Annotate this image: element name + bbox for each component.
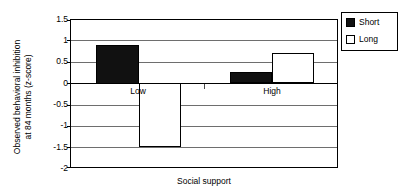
legend-item-short[interactable]: Short xyxy=(346,17,379,27)
y-tick-label-4: 0 xyxy=(40,78,68,88)
y-axis-title: Observed behavioral inhibition at 84 mon… xyxy=(0,0,44,193)
gridline-1 xyxy=(71,40,337,41)
chart-figure: Observed behavioral inhibition at 84 mon… xyxy=(0,0,409,193)
category-separator-tick xyxy=(204,84,205,89)
y-tick-mark-3 xyxy=(67,62,71,63)
gridline--0.5 xyxy=(71,105,337,106)
category-label-low: Low xyxy=(130,86,146,96)
y-tick-label-7: -1.5 xyxy=(40,142,68,152)
y-tick-mark-4 xyxy=(67,83,71,84)
y-tick-mark-1 xyxy=(67,20,71,21)
chart-legend: Short Long xyxy=(341,12,398,51)
y-tick-label-8: -2 xyxy=(40,163,68,173)
y-axis-title-line-1: Observed behavioral inhibition xyxy=(12,39,23,153)
y-tick-label-6: -1 xyxy=(40,120,68,130)
plot-area: Low High xyxy=(70,19,338,168)
y-tick-mark-2 xyxy=(67,40,71,41)
y-tick-mark-8 xyxy=(67,167,71,168)
category-label-high: High xyxy=(263,86,280,96)
legend-label-long: Long xyxy=(359,34,378,44)
bar-low-short[interactable] xyxy=(96,45,139,84)
y-tick-label-2: 1 xyxy=(40,35,68,45)
y-tick-label-5: -0.5 xyxy=(40,99,68,109)
bar-high-short[interactable] xyxy=(230,72,272,83)
y-tick-mark-6 xyxy=(67,126,71,127)
x-axis-title: Social support xyxy=(70,176,338,186)
y-tick-mark-7 xyxy=(67,147,71,148)
y-axis-tick-labels: 1.5 1 0.5 0 -0.5 -1 -1.5 -2 xyxy=(40,0,68,193)
legend-item-long[interactable]: Long xyxy=(346,34,378,44)
gridline--1 xyxy=(71,126,337,127)
legend-swatch-short-icon xyxy=(346,18,355,27)
y-axis-title-line-2: at 84 months (z-score) xyxy=(22,39,33,153)
y-tick-label-3: 0.5 xyxy=(40,56,68,66)
bar-high-long[interactable] xyxy=(272,53,314,83)
y-tick-mark-5 xyxy=(67,105,71,106)
legend-label-short: Short xyxy=(359,17,379,27)
legend-swatch-long-icon xyxy=(346,35,355,44)
gridline--1.5 xyxy=(71,147,337,148)
y-tick-label-1: 1.5 xyxy=(40,14,68,24)
